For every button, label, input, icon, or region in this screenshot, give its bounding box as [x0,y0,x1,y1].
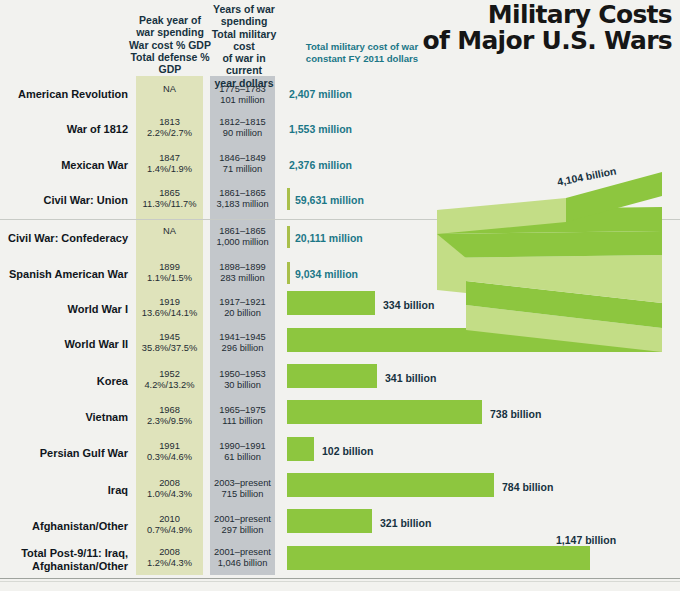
column-header-peak-year: Peak year of war spending War cost % GDP… [128,14,212,75]
peak-year-value: 1847 [136,153,203,164]
header-line: Total military cost of war [296,41,428,53]
peak-year-value: 2008 [136,478,203,489]
war-name-line: Afghanistan/Other [0,560,128,573]
peak-year-value: 2010 [136,514,203,525]
peak-gdp-percentages: 0.7%/4.9% [136,525,203,536]
cost-bar [287,473,494,497]
peak-year-cell: 19910.3%/4.6% [136,441,203,463]
peak-year-value: 1991 [136,441,203,452]
current-dollar-cost: 3,183 million [210,199,275,210]
bar-value-label: 20,111 million [295,232,363,244]
bar-value-label: 738 billion [490,408,541,420]
bar-value-label: 2,376 million [289,159,352,171]
war-name-line: Vietnam [0,411,128,424]
current-dollar-cost: 296 billion [210,343,275,354]
war-name-line: Total Post-9/11: Iraq, [0,547,128,560]
header-line: Years of war [204,3,284,15]
years-of-war-cell: 1898–1899283 million [210,262,275,284]
years-of-war-cell: 2003–present715 billion [210,478,275,500]
header-line: War cost % GDP [128,39,212,51]
war-name: American Revolution [0,88,128,101]
peak-gdp-percentages: 35.8%/37.5% [136,343,203,354]
war-name: Vietnam [0,411,128,424]
peak-year-cell: NA [136,226,203,237]
cost-bar [287,400,482,424]
peak-gdp-percentages: 4.2%/13.2% [136,380,203,391]
years-of-war-cell: 1861–18653,183 million [210,188,275,210]
current-dollar-cost: 715 billion [210,489,275,500]
cost-bar [287,437,314,461]
header-line: of war in current [204,52,284,77]
cost-bar [287,364,377,388]
current-dollar-cost: 101 million [210,95,275,106]
peak-gdp-percentages: 13.6%/14.1% [136,308,203,319]
peak-year-value: 1945 [136,332,203,343]
war-name-line: Spanish American War [0,268,128,281]
peak-gdp-percentages: 2.2%/2.7% [136,128,203,139]
years-range: 1861–1865 [210,226,275,237]
years-range: 1775–1783 [210,84,275,95]
peak-year-value: 1968 [136,405,203,416]
peak-year-value: NA [136,84,203,95]
current-dollar-cost: 297 billion [210,525,275,536]
years-range: 2003–present [210,478,275,489]
bar-value-label: 59,631 million [295,194,364,206]
years-range: 1861–1865 [210,188,275,199]
years-of-war-cell: 1965–1975111 billion [210,405,275,427]
years-of-war-cell: 1812–181590 million [210,117,275,139]
war-name: Civil War: Confederacy [0,232,128,245]
peak-year-column-band [136,76,203,575]
war-name-line: War of 1812 [0,123,128,136]
current-dollar-cost: 30 billion [210,380,275,391]
header-line: Peak year of [128,14,212,26]
peak-year-value: 1919 [136,297,203,308]
peak-year-cell: 186511.3%/11.7% [136,188,203,210]
war-name-line: American Revolution [0,88,128,101]
peak-year-cell: 20100.7%/4.9% [136,514,203,536]
war-name: World War II [0,338,128,351]
world-war-2-value-label: 4,104 billion [556,165,617,188]
bar-value-label: 784 billion [502,481,553,493]
peak-year-value: 1865 [136,188,203,199]
current-dollar-cost: 90 million [210,128,275,139]
years-range: 1812–1815 [210,117,275,128]
war-name: World War I [0,303,128,316]
years-range: 1917–1921 [210,297,275,308]
peak-year-cell: 191913.6%/14.1% [136,297,203,319]
bar-value-label: 1,553 million [289,123,352,135]
war-name-line: World War II [0,338,128,351]
years-range: 2001–present [210,547,275,558]
peak-year-value: 1813 [136,117,203,128]
war-name: War of 1812 [0,123,128,136]
page-title-line-1: Military Costs [352,2,672,28]
bar-value-label: 334 billion [383,299,434,311]
bar-value-label: 2,407 million [289,88,352,100]
bar-value-label: 1,147 billion [556,534,616,546]
years-range: 1898–1899 [210,262,275,273]
cost-bar [287,188,290,210]
peak-year-cell: 20081.0%/4.3% [136,478,203,500]
section-divider [0,219,680,220]
infographic-root: Military Costs of Major U.S. Wars Peak y… [0,0,680,591]
war-name: Korea [0,375,128,388]
footer-divider-secondary [0,581,680,582]
years-of-war-cell: 1846–184971 million [210,153,275,175]
peak-gdp-percentages: 1.1%/1.5% [136,273,203,284]
header-line: war spending [128,26,212,38]
years-of-war-cell: 1917–192120 billion [210,297,275,319]
header-line: constant FY 2011 dollars [296,53,428,65]
header-line: Total military cost [204,28,284,53]
years-range: 1965–1975 [210,405,275,416]
war-name: Total Post-9/11: Iraq,Afghanistan/Other [0,547,128,572]
peak-gdp-percentages: 11.3%/11.7% [136,199,203,210]
years-of-war-cell: 1950–195330 billion [210,369,275,391]
peak-year-cell: 20081.2%/4.3% [136,547,203,569]
cost-bar [287,546,590,570]
current-dollar-cost: 61 billion [210,452,275,463]
current-dollar-cost: 111 billion [210,416,275,427]
years-range: 1950–1953 [210,369,275,380]
war-name-line: Civil War: Union [0,194,128,207]
war-name: Mexican War [0,159,128,172]
war-name-line: Mexican War [0,159,128,172]
peak-year-value: 1899 [136,262,203,273]
